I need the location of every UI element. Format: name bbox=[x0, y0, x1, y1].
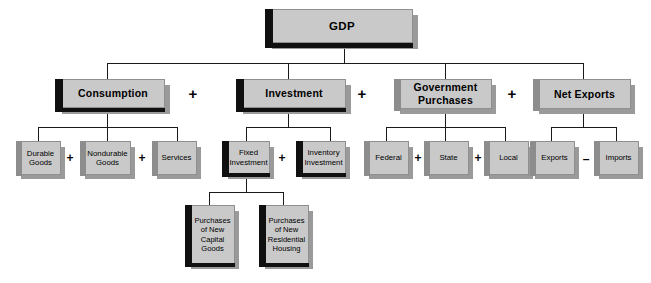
exports-box-left-edge bbox=[530, 141, 536, 176]
node-exports[interactable]: Exports bbox=[534, 141, 575, 175]
residential-housing-box-bottom-edge bbox=[259, 263, 309, 267]
connector-drop-local bbox=[505, 127, 506, 141]
node-imports[interactable]: Imports bbox=[598, 141, 639, 175]
node-residential-housing-label-line3: Residential bbox=[268, 235, 306, 244]
connector-net-exports-bus bbox=[551, 127, 616, 128]
connector-fixed-investment-stem bbox=[246, 178, 247, 192]
node-capital-goods-label-line1: Purchases bbox=[195, 216, 231, 225]
connector-drop-consumption bbox=[107, 63, 108, 79]
node-residential-housing-label-line2: of New bbox=[275, 225, 299, 234]
connector-drop-fixed-investment bbox=[246, 127, 247, 141]
gdp-components-diagram: GDP Consumption + Investment + Governmen… bbox=[0, 0, 651, 283]
node-services-label: Services bbox=[162, 153, 192, 163]
node-investment-label: Investment bbox=[265, 87, 322, 100]
fixed-investment-box-left-edge bbox=[222, 141, 229, 177]
durable-goods-box-left-edge bbox=[16, 141, 22, 176]
node-state[interactable]: State bbox=[428, 141, 469, 175]
connector-drop-state bbox=[445, 127, 446, 141]
operator-plus-glyph: + bbox=[189, 85, 198, 102]
node-residential-housing-label-line4: Housing bbox=[273, 244, 301, 253]
node-inventory-investment-label-line1: Inventory bbox=[307, 148, 339, 158]
connector-government-stem bbox=[445, 112, 446, 127]
node-capital-goods-label-line2: of New bbox=[201, 225, 225, 234]
imports-box-left-edge bbox=[594, 141, 600, 176]
node-fixed-investment-label-line2: Investment bbox=[229, 158, 267, 168]
operator-plus-glyph: + bbox=[66, 151, 73, 165]
connector-drop-nondurable-goods bbox=[107, 127, 108, 141]
consumption-box-bottom-edge bbox=[55, 108, 165, 112]
operator-plus-consumption-investment: + bbox=[186, 86, 200, 101]
node-local[interactable]: Local bbox=[488, 141, 529, 175]
operator-plus-fixed-inventory: + bbox=[276, 152, 288, 164]
connector-consumption-stem bbox=[107, 112, 108, 127]
residential-housing-box-left-edge bbox=[259, 205, 266, 267]
node-investment[interactable]: Investment bbox=[242, 79, 346, 108]
inventory-investment-box-bottom-edge bbox=[296, 173, 346, 177]
connector-drop-capital-goods bbox=[209, 192, 210, 205]
connector-investment-stem bbox=[288, 112, 289, 127]
connector-drop-inventory-investment bbox=[330, 127, 331, 141]
connector-root-stem bbox=[344, 48, 345, 63]
node-fixed-investment-label-line1: Fixed bbox=[239, 148, 258, 158]
gdp-box-bottom-edge bbox=[265, 43, 413, 48]
operator-plus-glyph: + bbox=[508, 85, 517, 102]
node-state-label: State bbox=[439, 153, 457, 163]
node-consumption[interactable]: Consumption bbox=[61, 79, 165, 108]
node-fixed-investment[interactable]: Fixed Investment bbox=[227, 141, 270, 174]
operator-plus-glyph: + bbox=[414, 151, 421, 165]
node-capital-goods-label-line4: Goods bbox=[201, 244, 223, 253]
operator-minus-glyph: – bbox=[583, 152, 590, 166]
government-box-left-edge bbox=[394, 79, 401, 111]
connector-drop-durable-goods bbox=[38, 127, 39, 141]
fixed-investment-box-bottom-edge bbox=[222, 173, 270, 177]
capital-goods-box-left-edge bbox=[185, 205, 192, 267]
connector-investment-bus bbox=[246, 127, 330, 128]
node-inventory-investment[interactable]: Inventory Investment bbox=[301, 141, 346, 174]
operator-plus-glyph: + bbox=[474, 151, 481, 165]
operator-plus-glyph: + bbox=[278, 151, 285, 165]
connector-drop-net-exports bbox=[583, 63, 584, 79]
node-imports-label: Imports bbox=[606, 153, 632, 163]
operator-plus-federal-state: + bbox=[412, 152, 424, 164]
node-federal-label: Federal bbox=[375, 153, 401, 163]
inventory-investment-box-left-edge bbox=[296, 141, 303, 177]
node-durable-goods[interactable]: Durable Goods bbox=[20, 141, 61, 175]
node-services[interactable]: Services bbox=[156, 141, 197, 175]
operator-minus-exports-imports: – bbox=[580, 153, 592, 165]
connector-fixed-investment-bus bbox=[209, 192, 283, 193]
node-local-label: Local bbox=[499, 153, 518, 163]
operator-plus-state-local: + bbox=[472, 152, 484, 164]
connector-drop-imports bbox=[616, 127, 617, 141]
node-durable-goods-label-line2: Goods bbox=[29, 158, 52, 168]
node-government-purchases[interactable]: Government Purchases bbox=[399, 79, 492, 109]
node-federal[interactable]: Federal bbox=[368, 141, 409, 175]
gdp-box-left-edge bbox=[265, 9, 273, 47]
operator-plus-investment-government: + bbox=[355, 86, 369, 101]
local-box-left-edge bbox=[484, 141, 490, 176]
node-durable-goods-label-line1: Durable bbox=[27, 149, 54, 159]
connector-drop-residential-housing bbox=[283, 192, 284, 205]
connector-drop-services bbox=[177, 127, 178, 141]
capital-goods-box-bottom-edge bbox=[185, 263, 235, 267]
node-residential-housing-label-line1: Purchases bbox=[269, 216, 305, 225]
operator-plus-glyph: + bbox=[358, 85, 367, 102]
operator-plus-glyph: + bbox=[138, 151, 145, 165]
node-government-purchases-label-line2: Purchases bbox=[418, 94, 473, 107]
nondurable-goods-box-left-edge bbox=[80, 141, 86, 176]
node-purchases-new-capital-goods[interactable]: Purchases of New Capital Goods bbox=[190, 205, 235, 264]
connector-net-exports-stem bbox=[583, 112, 584, 127]
node-net-exports[interactable]: Net Exports bbox=[538, 79, 631, 109]
node-nondurable-goods[interactable]: Nondurable Goods bbox=[84, 141, 131, 175]
node-gdp[interactable]: GDP bbox=[271, 9, 413, 43]
connector-drop-investment bbox=[288, 63, 289, 79]
node-nondurable-goods-label-line2: Goods bbox=[96, 158, 119, 168]
net-exports-box-left-edge bbox=[533, 79, 540, 111]
services-box-left-edge bbox=[152, 141, 158, 176]
node-exports-label: Exports bbox=[541, 153, 567, 163]
connector-drop-exports bbox=[551, 127, 552, 141]
node-net-exports-label: Net Exports bbox=[554, 88, 615, 101]
node-purchases-new-residential-housing[interactable]: Purchases of New Residential Housing bbox=[264, 205, 309, 264]
connector-root-bus bbox=[107, 63, 583, 64]
operator-plus-durable-nondurable: + bbox=[64, 152, 76, 164]
node-inventory-investment-label-line2: Investment bbox=[304, 158, 342, 168]
